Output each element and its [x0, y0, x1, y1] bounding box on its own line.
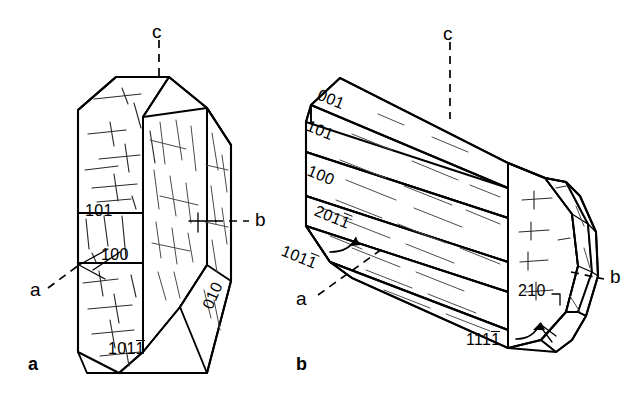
panel-a-crystal — [48, 40, 249, 373]
panel-a-face-label-101: 101 — [85, 203, 113, 219]
panel-b-face-label-111bar-digits: 111 — [466, 331, 491, 348]
panel-a-face-label-100: 100 — [101, 247, 129, 263]
panel-b-face-label-111bar: 1111 — [466, 332, 500, 348]
panel-b-axis-label-c: c — [443, 24, 453, 43]
panel-a-a-axis-line — [48, 265, 79, 288]
panel-a-face-label-101bar-digits: 101 — [108, 340, 136, 357]
panel-b-face-label-111bar-overbar-digit: 1 — [491, 332, 500, 348]
crystal-figure-svg — [0, 0, 642, 401]
panel-b-crystal — [306, 42, 604, 352]
panel-a-axis-label-a: a — [30, 280, 41, 299]
panel-b-caption: b — [296, 355, 307, 373]
panel-a-caption: a — [28, 355, 38, 373]
panel-b-axis-label-a: a — [296, 289, 307, 308]
panel-b-axis-label-b: b — [610, 267, 621, 286]
crystal-figure: c b a 101 100 010 1011 a c b a 001 101 1… — [0, 0, 642, 401]
panel-a-face-label-101bar: 1011 — [108, 341, 145, 357]
panel-a-axis-label-b: b — [255, 210, 266, 229]
panel-b-face-label-210: 210 — [518, 283, 546, 299]
panel-a-axis-label-c: c — [152, 22, 162, 41]
panel-a-face-label-101bar-overbar-digit: 1 — [136, 341, 145, 357]
